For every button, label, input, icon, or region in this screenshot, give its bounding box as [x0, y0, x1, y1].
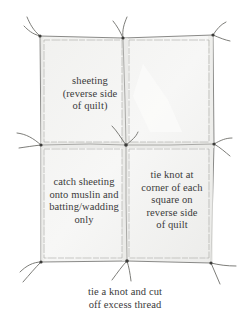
knot-icon [125, 259, 129, 263]
knot-icon [124, 143, 128, 147]
knot-icon [39, 143, 42, 146]
tie-top-middle [113, 17, 127, 40]
knot-icon [212, 142, 215, 145]
tie-top-right [211, 22, 230, 41]
tie-middle-left [17, 133, 43, 148]
tie-bottom-right [209, 261, 236, 284]
tie-middle-right [212, 138, 232, 156]
knot-icon [39, 260, 42, 263]
knot-icon [209, 261, 212, 264]
knot-icon [38, 34, 41, 37]
knot-icon [211, 33, 214, 36]
tie-bottom-left [20, 260, 43, 282]
label-catch-sheeting: catch sheeting onto muslin and batting/w… [40, 176, 128, 226]
quilt-diagram [0, 0, 247, 318]
center-seam-shade [122, 38, 128, 261]
label-tie-knot-cut: tie a knot and cut off excess thread [60, 286, 190, 311]
tie-bottom-middle [112, 259, 131, 281]
knot-icon [121, 36, 124, 39]
tie-top-left [24, 17, 42, 38]
label-sheeting: sheeting (reverse side of quilt) [50, 75, 130, 113]
label-tie-knot-corner: tie knot at corner of each square on rev… [132, 169, 212, 232]
